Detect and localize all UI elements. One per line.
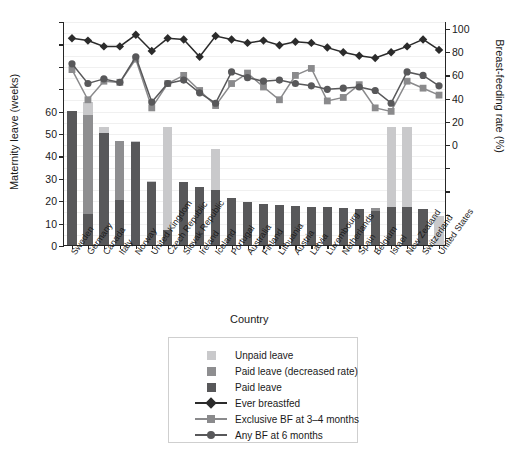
series-marker [403, 42, 411, 50]
y-axis-left-tick [59, 179, 64, 180]
legend-key [193, 413, 229, 425]
series-marker [276, 96, 283, 103]
y-axis-right-tick-label: 40 [452, 93, 464, 105]
legend-key [193, 349, 229, 361]
series-marker [355, 51, 363, 59]
y-axis-left-title: Maternity leave (weeks) [8, 74, 20, 190]
y-axis-left-tick [59, 156, 64, 157]
y-axis-left-tick-label: 60 [45, 106, 57, 118]
legend-ever-breastfed[interactable]: Ever breastfed [169, 395, 357, 411]
plot-area: 0102030405060100806040200 [63, 22, 446, 246]
series-marker [340, 94, 347, 101]
series-marker [227, 35, 235, 43]
series-marker [228, 68, 235, 75]
y-axis-right-tick-label: 20 [452, 116, 464, 128]
legend-paid-leave-decreased[interactable]: Paid leave (decreased rate) [169, 363, 357, 379]
series-marker [243, 39, 251, 47]
circle-marker-icon [207, 431, 215, 439]
legend-unpaid-leave[interactable]: Unpaid leave [169, 347, 357, 363]
series-marker [404, 68, 411, 75]
legend-swatch-icon [207, 367, 216, 376]
series-marker [324, 98, 331, 105]
y-axis-right-tick [445, 168, 450, 169]
y-axis-right-tick [445, 145, 450, 146]
series-marker [340, 85, 347, 92]
legend-swatch-icon [207, 351, 216, 360]
series-marker [387, 48, 395, 56]
series-marker [372, 104, 379, 111]
series-marker [259, 36, 267, 44]
legend-label: Unpaid leave [235, 350, 293, 361]
y-axis-left-tick-label: 40 [45, 150, 57, 162]
chart-legend: Unpaid leavePaid leave (decreased rate)P… [168, 337, 358, 443]
chart-root: Maternity leave (weeks) Breast-feeding r… [0, 0, 517, 452]
series-marker [419, 35, 427, 43]
legend-paid-leave[interactable]: Paid leave [169, 379, 357, 395]
series-marker [324, 86, 331, 93]
y-axis-left-tick [59, 44, 64, 45]
series-marker [84, 36, 92, 44]
y-axis-right-tick [445, 29, 450, 30]
y-axis-left-tick [59, 246, 64, 247]
legend-label: Ever breastfed [235, 398, 300, 409]
series-marker [388, 108, 395, 115]
legend-label: Paid leave (decreased rate) [235, 366, 358, 377]
legend-label: Any BF at 6 months [235, 430, 323, 441]
y-axis-right-tick-label: 80 [452, 46, 464, 58]
series-marker [292, 72, 299, 79]
legend-exclusive-bf[interactable]: Exclusive BF at 3–4 months [169, 411, 357, 427]
x-axis-title: Country [230, 313, 269, 325]
series-marker [244, 74, 251, 81]
square-marker-icon [207, 415, 215, 423]
series-marker [339, 48, 347, 56]
legend-any-bf-6m[interactable]: Any BF at 6 months [169, 427, 357, 443]
series-marker [420, 85, 427, 92]
y-axis-right-tick-label: 60 [452, 69, 464, 81]
y-axis-left-tick [59, 112, 64, 113]
series-marker [308, 82, 315, 89]
y-axis-left-tick-label: 0 [51, 240, 57, 252]
y-axis-left-tick [59, 224, 64, 225]
y-axis-left-tick [59, 22, 64, 23]
legend-key [193, 429, 229, 441]
legend-label: Paid leave [235, 382, 282, 393]
series-marker [148, 98, 155, 105]
legend-key [193, 381, 229, 393]
series-marker [228, 80, 235, 87]
series-marker [164, 80, 171, 87]
y-axis-right-tick-label: 0 [452, 139, 458, 151]
y-axis-left-tick-label: 50 [45, 128, 57, 140]
y-axis-right-tick [445, 191, 450, 192]
plot-inner [64, 22, 445, 245]
series-line [72, 57, 439, 103]
series-marker [132, 53, 139, 60]
y-axis-left-tick-label: 10 [45, 218, 57, 230]
series-marker [180, 76, 187, 83]
series-marker [388, 100, 395, 107]
series-marker [419, 72, 426, 79]
series-marker [323, 43, 331, 51]
y-axis-right-tick [445, 122, 450, 123]
series-marker [276, 76, 283, 83]
series-marker [308, 65, 315, 72]
series-marker [100, 42, 108, 50]
y-axis-right-title: Breast-feeding rate (%) [494, 39, 506, 153]
series-marker [84, 80, 91, 87]
legend-label: Exclusive BF at 3–4 months [235, 414, 359, 425]
y-axis-left-tick-label: 30 [45, 173, 57, 185]
series-marker [404, 78, 411, 85]
y-axis-left-tick [59, 67, 64, 68]
legend-key [193, 397, 229, 409]
series-marker [307, 39, 315, 47]
series-marker [116, 79, 123, 86]
diamond-marker-icon [205, 397, 216, 408]
series-marker [436, 92, 443, 99]
series-marker [435, 82, 442, 89]
y-axis-right-tick-label: 100 [452, 23, 470, 35]
series-line [72, 35, 439, 58]
legend-swatch-icon [207, 383, 216, 392]
series-marker [435, 46, 443, 54]
y-axis-left-tick [59, 134, 64, 135]
series-marker [68, 34, 76, 42]
series-marker [196, 89, 203, 96]
